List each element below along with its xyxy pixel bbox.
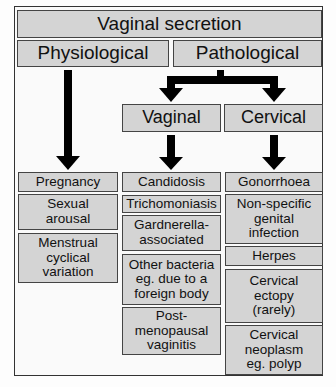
cause-cervical-neoplasm: Cervical neoplasm eg. polyp bbox=[225, 325, 323, 375]
cause-candidosis: Candidosis bbox=[122, 172, 221, 192]
cause-label: Post- menopausal vaginitis bbox=[135, 309, 209, 353]
arrow-physiological-icon bbox=[56, 70, 80, 170]
cause-label: Herpes bbox=[252, 249, 296, 264]
cause-label: Cervical neoplasm eg. polyp bbox=[245, 328, 304, 372]
arrow-vaginal-icon bbox=[159, 135, 183, 170]
cause-label: Non-specific genital infection bbox=[237, 197, 311, 241]
cause-label: Gonorrhoea bbox=[238, 175, 310, 190]
cause-label: Candidosis bbox=[138, 175, 205, 190]
cause-pregnancy: Pregnancy bbox=[18, 172, 118, 192]
cause-label: Trichomoniasis bbox=[126, 197, 216, 212]
cause-gardnerella: Gardnerella- associated bbox=[122, 215, 221, 251]
cause-label: Cervical ectopy (rarely) bbox=[250, 274, 299, 318]
arrow-pathological-branch-icon bbox=[159, 70, 286, 102]
cause-other-bacteria: Other bacteria eg. due to a foreign body bbox=[122, 254, 221, 305]
cause-non-specific-infection: Non-specific genital infection bbox=[225, 194, 323, 244]
cause-cervical-ectopy: Cervical ectopy (rarely) bbox=[225, 269, 323, 323]
cause-menstrual-variation: Menstrual cyclical variation bbox=[18, 233, 118, 283]
cause-trichomoniasis: Trichomoniasis bbox=[122, 195, 221, 213]
cause-label: Other bacteria eg. due to a foreign body bbox=[129, 258, 215, 302]
cause-label: Sexual arousal bbox=[46, 197, 90, 226]
cause-post-menopausal: Post- menopausal vaginitis bbox=[122, 307, 221, 355]
cause-label: Gardnerella- associated bbox=[134, 218, 209, 247]
arrow-cervical-icon bbox=[262, 135, 286, 170]
cause-sexual-arousal: Sexual arousal bbox=[18, 194, 118, 230]
cause-herpes: Herpes bbox=[225, 246, 323, 266]
cause-label: Menstrual cyclical variation bbox=[38, 236, 97, 280]
cause-gonorrhoea: Gonorrhoea bbox=[225, 172, 323, 192]
cause-label: Pregnancy bbox=[36, 175, 101, 190]
